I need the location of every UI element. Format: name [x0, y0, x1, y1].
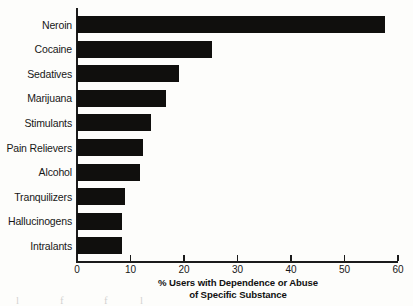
bar: [77, 213, 122, 230]
bar-row: Tranquilizers: [0, 188, 413, 205]
category-label: Sedatives: [27, 68, 72, 80]
bleed-mark-4: l: [140, 296, 143, 306]
category-label: Alcohol: [39, 166, 72, 178]
bar-row: Intralants: [0, 237, 413, 254]
bar: [77, 164, 140, 181]
bleed-mark-2: f: [60, 296, 64, 306]
x-tick: [290, 255, 291, 261]
bar: [77, 237, 122, 254]
bar: [77, 114, 151, 131]
bar-row: Pain Relievers: [0, 139, 413, 156]
category-label: Stimulants: [24, 117, 72, 129]
bar: [77, 188, 125, 205]
x-tick-label: 20: [179, 264, 190, 275]
bar: [77, 139, 143, 156]
category-label: Tranquilizers: [14, 191, 72, 203]
bar: [77, 90, 166, 107]
bar-row: Hallucinogens: [0, 213, 413, 230]
x-tick: [130, 255, 131, 261]
bar: [77, 16, 385, 33]
bar-chart-figure: NeroinCocaineSedativesMarijuanaStimulant…: [0, 0, 413, 306]
x-tick-label: 60: [393, 264, 404, 275]
x-tick: [397, 255, 398, 261]
plot-area: NeroinCocaineSedativesMarijuanaStimulant…: [0, 0, 413, 270]
x-tick-label: 0: [74, 264, 79, 275]
bar-row: Marijuana: [0, 90, 413, 107]
x-tick-label: 40: [286, 264, 297, 275]
category-label: Cocaine: [35, 43, 72, 55]
x-tick: [76, 255, 77, 261]
bleed-mark-3: f: [104, 296, 108, 306]
scan-bleed-artifacts: l f f l: [0, 296, 413, 306]
bar-row: Alcohol: [0, 164, 413, 181]
bar-row: Sedatives: [0, 65, 413, 82]
x-tick-label: 50: [339, 264, 350, 275]
category-label: Hallucinogens: [8, 215, 72, 227]
category-label: Pain Relievers: [6, 142, 72, 154]
x-axis-title-line-1: % Users with Dependence or Abuse: [77, 277, 399, 289]
x-tick: [183, 255, 184, 261]
bleed-mark-1: l: [16, 296, 19, 306]
category-label: Marijuana: [27, 92, 72, 104]
category-label: Neroin: [42, 19, 72, 31]
bar: [77, 65, 179, 82]
x-tick-label: 10: [125, 264, 136, 275]
x-tick: [237, 255, 238, 261]
bar-row: Stimulants: [0, 114, 413, 131]
bar-row: Cocaine: [0, 41, 413, 58]
bar-row: Neroin: [0, 16, 413, 33]
x-axis-line: [76, 261, 398, 263]
category-label: Intralants: [30, 240, 72, 252]
x-tick: [344, 255, 345, 261]
bar: [77, 41, 212, 58]
x-tick-label: 30: [232, 264, 243, 275]
